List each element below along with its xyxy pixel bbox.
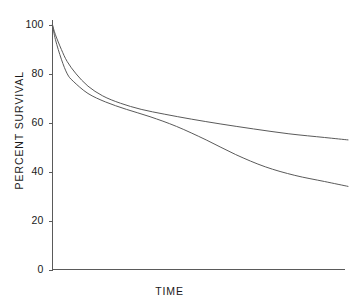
y-tick-label: 0: [37, 264, 43, 275]
y-tick-label: 80: [31, 68, 43, 79]
x-axis-title: TIME: [0, 286, 339, 297]
plot-area: [0, 0, 359, 308]
y-axis-title: PERCENT SURVIVAL: [14, 60, 25, 200]
series-line-2: [53, 25, 349, 186]
y-tick-marks: [49, 26, 53, 271]
series-group: [53, 25, 349, 186]
y-tick-label: 40: [31, 166, 43, 177]
y-tick-label: 100: [25, 19, 43, 30]
series-line-1: [53, 25, 349, 140]
y-tick-label: 20: [31, 215, 43, 226]
survival-chart: 020406080100 PERCENT SURVIVAL TIME: [0, 0, 359, 308]
y-tick-label: 60: [31, 117, 43, 128]
